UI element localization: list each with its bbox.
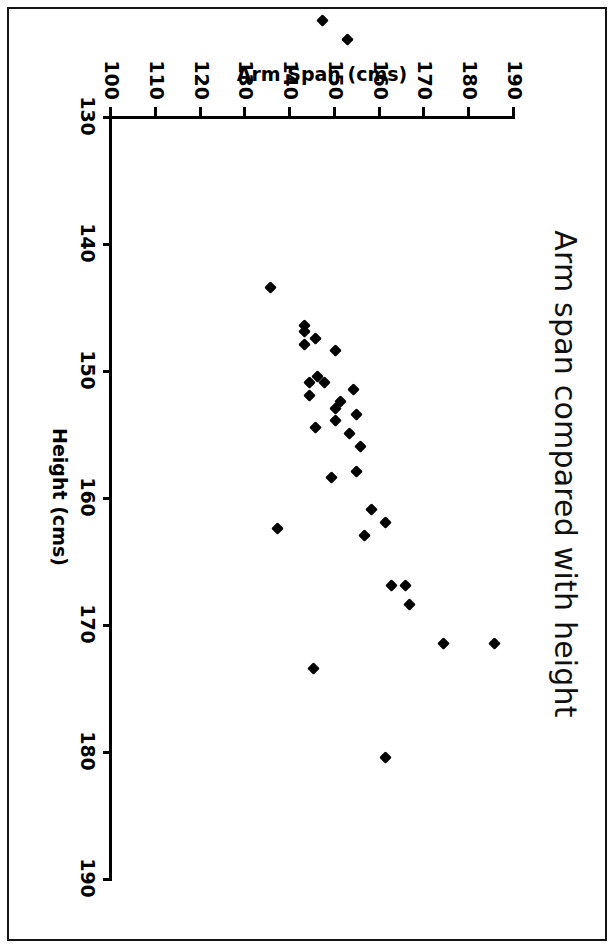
scanned-page: Arm span compared with height 1301401501… [0, 0, 614, 948]
x-tick-mark [103, 116, 112, 119]
data-point [265, 281, 278, 294]
data-point [330, 345, 343, 358]
y-tick-mark [467, 107, 470, 116]
data-point [437, 637, 450, 650]
data-point [379, 516, 392, 529]
data-point [309, 332, 322, 345]
data-point [271, 522, 284, 535]
data-point [303, 389, 316, 402]
data-point [403, 599, 416, 612]
data-point [354, 440, 367, 453]
y-tick-mark [109, 107, 112, 116]
data-point [347, 383, 360, 396]
x-tick-mark [103, 243, 112, 246]
data-point [307, 662, 320, 675]
x-tick-mark [103, 878, 112, 881]
y-tick-mark [422, 107, 425, 116]
y-tick-mark [512, 107, 515, 116]
data-point [488, 637, 501, 650]
x-tick-label: 140 [77, 213, 99, 273]
x-tick-label: 170 [77, 594, 99, 654]
y-tick-mark [243, 107, 246, 116]
x-tick-label: 160 [77, 467, 99, 527]
data-point [350, 408, 363, 421]
data-point [350, 465, 363, 478]
plot-area: 130140150160170180190 100110120130140150… [112, 116, 515, 878]
x-tick-mark [103, 497, 112, 500]
x-tick-mark [103, 751, 112, 754]
y-tick-mark [288, 107, 291, 116]
y-tick-mark [378, 107, 381, 116]
chart-title: Arm span compared with height [548, 24, 583, 924]
x-tick-mark [103, 624, 112, 627]
y-tick-mark [154, 107, 157, 116]
rotated-figure-wrapper: Arm span compared with height 1301401501… [27, 24, 587, 924]
data-point [298, 338, 311, 351]
data-point [379, 751, 392, 764]
data-point [325, 472, 338, 485]
y-tick-mark [199, 107, 202, 116]
x-tick-label: 180 [77, 721, 99, 781]
data-point [343, 427, 356, 440]
x-tick-label: 190 [77, 848, 99, 908]
y-axis-line [109, 116, 515, 119]
y-tick-mark [333, 107, 336, 116]
x-axis-title: Height (cms) [49, 116, 71, 878]
data-point [386, 580, 399, 593]
data-point [316, 14, 329, 27]
data-point [330, 414, 343, 427]
data-point [365, 503, 378, 516]
data-point [399, 580, 412, 593]
x-tick-label: 130 [77, 86, 99, 146]
x-tick-mark [103, 370, 112, 373]
x-tick-label: 150 [77, 340, 99, 400]
data-point [359, 529, 372, 542]
y-axis-title: Arm Span (cms) [112, 63, 532, 85]
data-point [309, 421, 322, 434]
scatter-chart: Arm span compared with height 1301401501… [27, 24, 587, 924]
